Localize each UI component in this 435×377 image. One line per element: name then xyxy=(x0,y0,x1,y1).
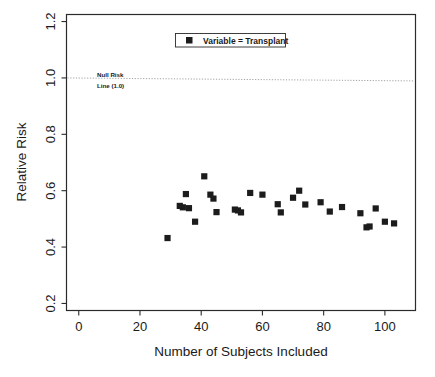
data-point xyxy=(327,208,333,214)
data-point xyxy=(164,235,170,241)
scatter-plot-figure: 0.20.40.60.81.01.2 020406080100 Null Ris… xyxy=(0,0,435,377)
null-risk-annotation-line1: Null Risk xyxy=(97,71,124,78)
data-point xyxy=(201,173,207,179)
y-axis-ticks: 0.20.40.60.81.01.2 xyxy=(43,13,67,313)
data-point xyxy=(317,199,323,205)
y-axis-title: Relative Risk xyxy=(14,122,29,201)
y-tick-label: 0.8 xyxy=(43,125,58,143)
data-point xyxy=(357,210,363,216)
y-tick-label: 1.2 xyxy=(43,13,58,31)
legend: Variable = Transplant xyxy=(176,34,289,48)
data-point xyxy=(302,201,308,207)
data-point-group xyxy=(164,173,397,241)
data-point xyxy=(278,209,284,215)
data-point xyxy=(183,191,189,197)
y-tick-label: 0.2 xyxy=(43,294,58,312)
data-point xyxy=(238,209,244,215)
data-point xyxy=(210,195,216,201)
data-point xyxy=(391,220,397,226)
data-point xyxy=(186,205,192,211)
x-tick-label: 60 xyxy=(255,319,269,334)
y-tick-label: 1.0 xyxy=(43,69,58,87)
data-point xyxy=(259,192,265,198)
data-point xyxy=(192,219,198,225)
data-point xyxy=(213,209,219,215)
null-risk-annotation-line2: Line (1.0) xyxy=(97,82,124,89)
data-point xyxy=(373,205,379,211)
x-axis-title: Number of Subjects Included xyxy=(154,344,327,359)
data-point xyxy=(382,219,388,225)
x-axis-ticks: 020406080100 xyxy=(75,311,396,334)
legend-entry-label: Variable = Transplant xyxy=(203,36,288,46)
x-tick-label: 20 xyxy=(133,319,147,334)
plot-canvas: 0.20.40.60.81.01.2 020406080100 Null Ris… xyxy=(0,0,435,377)
data-point xyxy=(180,204,186,210)
plot-frame xyxy=(67,15,416,311)
data-point xyxy=(275,201,281,207)
data-point xyxy=(296,188,302,194)
null-risk-reference-line xyxy=(68,78,415,81)
data-point xyxy=(339,204,345,210)
data-point xyxy=(366,223,372,229)
legend-marker-square xyxy=(186,37,193,44)
data-point xyxy=(247,190,253,196)
x-tick-label: 100 xyxy=(374,319,396,334)
y-tick-label: 0.6 xyxy=(43,182,58,200)
x-tick-label: 80 xyxy=(316,319,330,334)
data-point xyxy=(290,195,296,201)
x-tick-label: 40 xyxy=(194,319,208,334)
y-tick-label: 0.4 xyxy=(43,238,58,256)
x-tick-label: 0 xyxy=(75,319,82,334)
